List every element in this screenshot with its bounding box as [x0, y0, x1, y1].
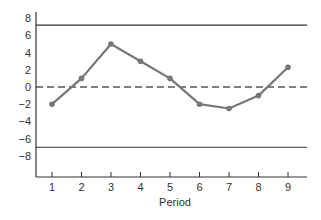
reference-lines: [36, 25, 307, 147]
data-series: [49, 41, 291, 111]
y-tick-label: −4: [18, 115, 31, 127]
control-chart: 123456789 86420−2−4−6−8 Period: [0, 0, 321, 220]
x-tick-label: 9: [285, 181, 291, 193]
data-point-marker: [226, 106, 232, 112]
x-tick-label: 8: [255, 181, 261, 193]
data-point-marker: [108, 41, 114, 47]
y-tick-label: 4: [25, 47, 31, 59]
x-tick-label: 3: [108, 181, 114, 193]
y-tick-label: −6: [18, 133, 31, 145]
y-axis-ticks: 86420−2−4−6−8: [18, 12, 31, 162]
x-tick-label: 2: [78, 181, 84, 193]
y-tick-label: −2: [18, 98, 31, 110]
data-point-marker: [285, 64, 291, 70]
x-tick-label: 5: [167, 181, 173, 193]
x-tick-label: 7: [226, 181, 232, 193]
data-point-marker: [138, 58, 144, 64]
y-tick-label: 8: [25, 12, 31, 24]
x-axis-ticks: 123456789: [49, 172, 291, 193]
data-point-marker: [79, 76, 85, 82]
x-tick-label: 4: [137, 181, 143, 193]
data-point-marker: [256, 93, 262, 99]
y-tick-label: −8: [18, 150, 31, 162]
axes: [36, 12, 307, 177]
y-tick-label: 6: [25, 29, 31, 41]
y-tick-label: 2: [25, 64, 31, 76]
x-tick-label: 1: [49, 181, 55, 193]
data-point-marker: [197, 101, 203, 107]
data-point-marker: [167, 76, 173, 82]
y-tick-label: 0: [25, 81, 31, 93]
data-point-marker: [49, 101, 55, 107]
chart-canvas: 123456789 86420−2−4−6−8 Period: [0, 0, 321, 220]
x-tick-label: 6: [196, 181, 202, 193]
x-axis-title: Period: [159, 196, 191, 208]
